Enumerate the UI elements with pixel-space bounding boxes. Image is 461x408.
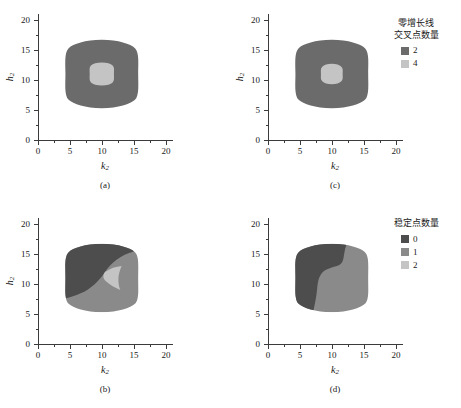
- x-tick-minor: [348, 345, 349, 347]
- x-ticklabel: 0: [266, 146, 271, 156]
- panel-b: 0 5 10 15 20 0 5 10 15 20 k2 h2 (b): [0, 204, 230, 408]
- legend-stable-points: 稳定点数量 0 1 2: [372, 218, 460, 271]
- y-tick-minor: [36, 329, 38, 330]
- y-ticklabel: 20: [251, 15, 260, 25]
- y-ticklabel: 15: [21, 45, 30, 55]
- x-ticklabel: 5: [298, 146, 303, 156]
- y-tick-minor: [266, 329, 268, 330]
- x-axis-title: k2: [101, 160, 109, 172]
- legend-swatch-icon: [401, 60, 409, 68]
- x-ticklabel: 15: [360, 146, 369, 156]
- x-tick-minor: [316, 345, 317, 347]
- y-tick-5: [34, 110, 38, 111]
- y-axis-title-main: h: [4, 76, 15, 81]
- y-axis-line-a: [38, 14, 39, 141]
- x-tick-5: [300, 345, 301, 349]
- x-ticklabel: 10: [328, 350, 337, 360]
- y-axis-line-c: [268, 14, 269, 141]
- y-tick-minor: [36, 269, 38, 270]
- y-tick-0: [264, 344, 268, 345]
- x-ticklabel: 5: [68, 146, 73, 156]
- region-b-medium: [38, 218, 172, 344]
- x-ticklabel: 0: [266, 350, 271, 360]
- y-tick-5: [264, 110, 268, 111]
- region-a-inner: [90, 63, 114, 86]
- x-tick-minor: [380, 345, 381, 347]
- x-tick-10: [332, 141, 333, 145]
- y-ticklabel: 5: [26, 105, 31, 115]
- y-ticklabel: 10: [21, 279, 30, 289]
- x-tick-0: [38, 141, 39, 145]
- x-axis-line-b: [38, 344, 173, 345]
- y-tick-minor: [36, 125, 38, 126]
- y-tick-minor: [266, 269, 268, 270]
- y-tick-15: [34, 50, 38, 51]
- y-tick-5: [264, 314, 268, 315]
- y-axis-title-sub: 2: [238, 73, 246, 77]
- legend-zero-growth: 零增长线 交叉点数量 2 4: [372, 18, 460, 69]
- y-tick-0: [264, 140, 268, 141]
- legend-entry[interactable]: 0: [401, 234, 431, 245]
- y-ticklabel: 0: [26, 339, 31, 349]
- legend-entry[interactable]: 2: [401, 45, 431, 56]
- x-axis-title: k2: [101, 364, 109, 376]
- x-tick-0: [268, 345, 269, 349]
- x-tick-minor: [86, 141, 87, 143]
- y-tick-20: [264, 20, 268, 21]
- y-ticklabel: 20: [251, 219, 260, 229]
- x-ticklabel: 0: [36, 146, 41, 156]
- y-tick-minor: [266, 239, 268, 240]
- figure-root: 0 5 10 15 20 0 5 10 15 20 k2 h2 (a): [0, 0, 461, 408]
- x-tick-minor: [118, 141, 119, 143]
- legend-entry-label: 2: [413, 45, 418, 56]
- x-axis-title-sub: 2: [105, 164, 109, 172]
- x-tick-20: [396, 345, 397, 349]
- x-tick-minor: [118, 345, 119, 347]
- x-ticklabel: 10: [328, 146, 337, 156]
- x-tick-15: [364, 345, 365, 349]
- x-axis-title-sub: 2: [105, 368, 109, 376]
- x-ticklabel: 20: [162, 350, 171, 360]
- x-tick-minor: [284, 141, 285, 143]
- y-axis-title: h2: [234, 73, 246, 82]
- y-tick-20: [34, 20, 38, 21]
- x-tick-minor: [150, 345, 151, 347]
- x-axis-title: k2: [331, 160, 339, 172]
- legend-entry[interactable]: 2: [401, 260, 431, 271]
- y-tick-10: [264, 284, 268, 285]
- x-ticklabel: 15: [130, 146, 139, 156]
- y-tick-minor: [266, 95, 268, 96]
- legend-items: 2 4: [372, 45, 460, 69]
- y-ticklabel: 10: [21, 75, 30, 85]
- y-tick-minor: [266, 35, 268, 36]
- y-tick-minor: [36, 35, 38, 36]
- x-ticklabel: 10: [98, 350, 107, 360]
- y-ticklabel: 20: [21, 219, 30, 229]
- x-tick-15: [364, 141, 365, 145]
- y-tick-0: [34, 344, 38, 345]
- x-tick-0: [38, 345, 39, 349]
- y-tick-15: [264, 254, 268, 255]
- legend-entry[interactable]: 4: [401, 58, 431, 69]
- x-ticklabel: 0: [36, 350, 41, 360]
- x-tick-minor: [348, 141, 349, 143]
- region-c-inner: [321, 64, 343, 84]
- y-axis-title-main: h: [4, 280, 15, 285]
- legend-title-line2: 交叉点数量: [372, 30, 460, 42]
- panel-caption-d: (d): [330, 384, 341, 394]
- legend-entry-label: 1: [413, 247, 418, 258]
- y-ticklabel: 5: [256, 105, 261, 115]
- y-axis-title-sub: 2: [8, 73, 16, 77]
- y-axis-line-d: [268, 218, 269, 345]
- y-tick-0: [34, 140, 38, 141]
- y-ticklabel: 5: [26, 309, 31, 319]
- x-axis-title-sub: 2: [335, 368, 339, 376]
- y-ticklabel: 0: [256, 339, 261, 349]
- legend-entry-label: 0: [413, 234, 418, 245]
- x-ticklabel: 5: [298, 350, 303, 360]
- x-tick-minor: [316, 141, 317, 143]
- legend-entry[interactable]: 1: [401, 247, 431, 258]
- y-tick-10: [34, 80, 38, 81]
- y-tick-10: [34, 284, 38, 285]
- x-tick-5: [300, 141, 301, 145]
